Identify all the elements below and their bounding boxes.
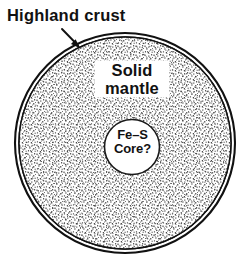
fe-s-core-label-line1: Fe–S	[104, 128, 161, 142]
solid-mantle-label: Solid mantle	[96, 62, 168, 96]
highland-crust-label: Highlandcrust	[7, 7, 126, 24]
interior-cross-section-figure: Highlandcrust Solid mantle Fe–S Core?	[0, 0, 249, 266]
crust-leader-arrow	[62, 29, 81, 49]
solid-mantle-label-line1: Solid	[96, 62, 168, 79]
highland-crust-label-word2: crust	[84, 6, 125, 24]
fe-s-core-label: Fe–S Core?	[104, 128, 161, 156]
solid-mantle-label-line2: mantle	[96, 80, 168, 97]
fe-s-core-label-line2: Core?	[104, 142, 161, 156]
highland-crust-label-word1: Highland	[7, 6, 79, 24]
